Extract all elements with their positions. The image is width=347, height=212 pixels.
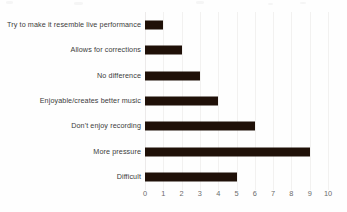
category-label: Difficult bbox=[117, 174, 141, 181]
x-tick-label-9: 9 bbox=[308, 190, 312, 197]
x-tick-label-1: 1 bbox=[161, 190, 165, 197]
category-label: Try to make it resemble live performance bbox=[7, 21, 141, 28]
bar-chart: Try to make it resemble live performance… bbox=[0, 0, 347, 212]
x-axis: 012345678910 bbox=[145, 190, 328, 204]
scan-noise bbox=[0, 0, 347, 8]
gridline-10 bbox=[328, 12, 329, 190]
x-tick-label-0: 0 bbox=[143, 190, 147, 197]
category-label: Don't enjoy recording bbox=[71, 123, 141, 130]
bar bbox=[145, 173, 237, 182]
x-tick-label-3: 3 bbox=[198, 190, 202, 197]
bar bbox=[145, 96, 218, 105]
category-label: No difference bbox=[97, 72, 141, 79]
bar bbox=[145, 46, 182, 55]
category-label: Allows for corrections bbox=[70, 47, 141, 54]
bar bbox=[145, 20, 163, 29]
x-tick-label-5: 5 bbox=[234, 190, 238, 197]
bar bbox=[145, 122, 255, 131]
bar-row: No difference bbox=[145, 63, 328, 88]
x-tick-label-10: 10 bbox=[324, 190, 332, 197]
x-tick-label-2: 2 bbox=[180, 190, 184, 197]
bar-row: More pressure bbox=[145, 139, 328, 164]
plot-area: Try to make it resemble live performance… bbox=[145, 12, 328, 190]
bar-row: Try to make it resemble live performance bbox=[145, 12, 328, 37]
bar-row: Don't enjoy recording bbox=[145, 114, 328, 139]
x-tick-label-6: 6 bbox=[253, 190, 257, 197]
x-tick-label-4: 4 bbox=[216, 190, 220, 197]
x-tick-label-8: 8 bbox=[289, 190, 293, 197]
bar-rows: Try to make it resemble live performance… bbox=[145, 12, 328, 190]
bar bbox=[145, 71, 200, 80]
category-label: More pressure bbox=[93, 148, 141, 155]
bar bbox=[145, 147, 310, 156]
bar-row: Allows for corrections bbox=[145, 37, 328, 62]
x-tick-label-7: 7 bbox=[271, 190, 275, 197]
bar-row: Enjoyable/creates better music bbox=[145, 88, 328, 113]
category-label: Enjoyable/creates better music bbox=[40, 97, 141, 104]
bar-row: Difficult bbox=[145, 165, 328, 190]
